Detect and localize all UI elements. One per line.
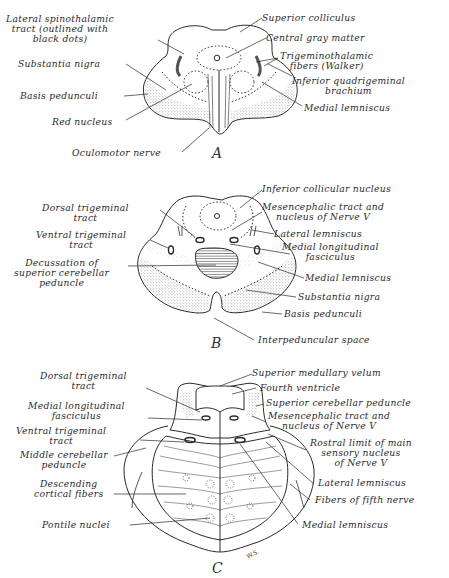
label-superior-colliculus: Superior colliculus <box>262 13 356 23</box>
label-decussation-superior-cerebellar-peduncle: Decussation of superior cerebellar pedun… <box>14 258 109 288</box>
label-dorsal-trigeminal-tract-b: Dorsal trigeminal tract <box>42 203 129 223</box>
label-line: black dots) <box>6 34 114 44</box>
label-basis-pedunculi-b: Basis pedunculi <box>284 309 362 319</box>
label-central-gray-matter: Central gray matter <box>266 33 365 43</box>
label-lateral-spinothalamic-tract: Lateral spinothalamic tract (outlined wi… <box>6 14 114 44</box>
label-line: cortical fibers <box>34 489 103 499</box>
label-substantia-nigra-a: Substantia nigra <box>18 59 100 69</box>
label-inferior-quadrigeminal-brachium: Inferior quadrigeminal brachium <box>292 76 405 96</box>
label-line: of Nerve V <box>310 458 412 468</box>
label-pontile-nuclei: Pontile nuclei <box>42 520 110 530</box>
label-superior-cerebellar-peduncle: Superior cerebellar peduncle <box>266 398 411 408</box>
label-basis-pedunculi-a: Basis pedunculi <box>20 91 98 101</box>
label-line: tract <box>16 436 106 446</box>
label-line: peduncle <box>14 278 109 288</box>
label-interpeduncular-space: Interpeduncular space <box>258 335 370 345</box>
label-line: nucleus of Nerve V <box>268 421 390 431</box>
label-mesencephalic-tract-b: Mesencephalic tract and nucleus of Nerve… <box>262 202 384 222</box>
label-inferior-collicular-nucleus: Inferior collicular nucleus <box>262 184 391 194</box>
label-middle-cerebellar-peduncle: Middle cerebellar peduncle <box>20 450 108 470</box>
panel-letter-a: A <box>212 145 222 161</box>
label-line: tract <box>40 381 127 391</box>
label-lateral-lemniscus-c: Lateral lemniscus <box>318 478 406 488</box>
label-fibers-of-fifth-nerve: Fibers of fifth nerve <box>315 495 414 505</box>
label-dorsal-trigeminal-tract-c: Dorsal trigeminal tract <box>40 371 127 391</box>
label-line: tract <box>36 240 126 250</box>
label-line: nucleus of Nerve V <box>262 212 384 222</box>
label-substantia-nigra-b: Substantia nigra <box>298 292 380 302</box>
label-mesencephalic-tract-c: Mesencephalic tract and nucleus of Nerve… <box>268 411 390 431</box>
label-line: tract <box>42 213 129 223</box>
panel-letter-c: C <box>212 560 223 576</box>
brainstem-cross-sections-figure: Lateral spinothalamic tract (outlined wi… <box>0 0 449 578</box>
label-fourth-ventricle: Fourth ventricle <box>260 383 340 393</box>
label-lateral-lemniscus-b: Lateral lemniscus <box>274 229 362 239</box>
label-medial-lemniscus-b: Medial lemniscus <box>305 273 391 283</box>
label-oculomotor-nerve: Oculomotor nerve <box>72 148 161 158</box>
label-medial-longitudinal-fasciculus-b: Medial longitudinal fasciculus <box>282 242 379 262</box>
label-line: fibers (Walker) <box>280 61 373 71</box>
label-line: fasciculus <box>28 411 125 421</box>
label-trigeminothalamic-fibers: Trigeminothalamic fibers (Walker) <box>280 51 373 71</box>
label-medial-lemniscus-a: Medial lemniscus <box>304 103 390 113</box>
label-ventral-trigeminal-tract-b: Ventral trigeminal tract <box>36 230 126 250</box>
label-superior-medullary-velum: Superior medullary velum <box>252 368 381 378</box>
label-line: peduncle <box>20 460 108 470</box>
label-descending-cortical-fibers: Descending cortical fibers <box>34 479 103 499</box>
label-ventral-trigeminal-tract-c: Ventral trigeminal tract <box>16 426 106 446</box>
label-line: brachium <box>292 86 405 96</box>
label-rostral-limit-main-sensory-nucleus: Rostral limit of main sensory nucleus of… <box>310 438 412 468</box>
panel-letter-b: B <box>211 335 221 351</box>
label-line: fasciculus <box>282 252 379 262</box>
label-red-nucleus: Red nucleus <box>52 117 112 127</box>
label-medial-longitudinal-fasciculus-c: Medial longitudinal fasciculus <box>28 401 125 421</box>
label-medial-lemniscus-c: Medial lemniscus <box>302 520 388 530</box>
